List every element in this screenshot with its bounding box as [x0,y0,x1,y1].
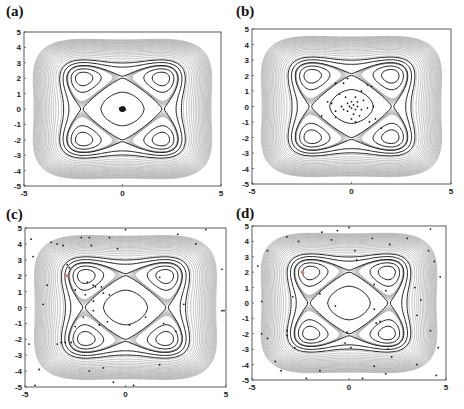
y-tick-label: -4 [14,167,22,176]
y-tick-label: -3 [242,149,250,158]
y-tick-label: 2 [245,268,250,277]
best-point-marker [65,274,69,278]
panel-b: 543210-1-2-3-4-5-505 [242,25,454,196]
x-tick-label: -5 [20,189,28,198]
y-tick-label: 0 [245,103,250,112]
y-tick-label: 3 [245,56,250,65]
y-tick-label: -2 [242,134,250,143]
y-tick-label: 4 [17,43,22,52]
y-tick-label: 5 [17,28,22,37]
contour-lines [261,36,441,176]
y-tick-label: -2 [14,136,22,145]
y-tick-label: 1 [245,87,250,96]
best-point-marker [301,270,305,274]
y-tick-label: 1 [245,284,250,293]
y-tick-label: 5 [245,25,250,34]
x-tick-label: 5 [219,189,224,198]
x-tick-label: 5 [444,383,449,392]
x-tick-label: 0 [347,383,352,392]
y-tick-label: -4 [242,361,250,370]
y-tick-label: -4 [242,165,250,174]
x-tick-label: 0 [120,189,125,198]
y-tick-label: 1 [18,288,23,297]
y-tick-label: -3 [15,351,23,360]
y-tick-label: 2 [245,72,250,81]
scatter-points [119,106,126,112]
y-tick-label: 4 [245,41,250,50]
figure-canvas: 543210-1-2-3-4-5-505543210-1-2-3-4-5-505… [0,0,464,409]
y-tick-label: 2 [17,74,22,83]
x-tick-label: 0 [123,390,128,399]
y-tick-label: 0 [245,299,250,308]
x-tick-label: -5 [248,187,256,196]
y-tick-label: 0 [18,304,23,313]
y-tick-label: 0 [17,105,22,114]
panel-label: (d) [236,205,254,222]
contour-lines [261,233,437,372]
y-tick-label: -4 [15,367,23,376]
panel-label: (a) [6,3,24,20]
y-tick-label: -2 [15,335,23,344]
y-tick-label: 4 [245,237,250,246]
panel-a: 543210-1-2-3-4-5-505 [14,28,224,198]
y-tick-label: 5 [245,222,250,231]
x-tick-label: 5 [449,187,454,196]
y-tick-label: -1 [242,118,250,127]
y-tick-label: -2 [242,330,250,339]
panel-label: (c) [6,206,23,223]
panel-label: (b) [236,3,254,20]
y-tick-label: -1 [242,314,250,323]
y-tick-label: -1 [15,319,23,328]
panel-c: 543210-1-2-3-4-5-505 [15,224,229,399]
y-tick-label: 3 [245,253,250,262]
contour-lines [35,236,217,380]
x-tick-label: -5 [248,383,256,392]
x-tick-label: 5 [224,390,229,399]
y-tick-label: 2 [18,272,23,281]
y-tick-label: -3 [14,151,22,160]
x-tick-label: -5 [21,390,29,399]
panel-d: 543210-1-2-3-4-5-505 [242,222,449,392]
y-tick-label: -1 [14,120,22,129]
x-tick-label: 0 [349,187,354,196]
y-tick-label: 1 [17,90,22,99]
y-tick-label: 4 [18,240,23,249]
y-tick-label: -3 [242,345,250,354]
y-tick-label: 3 [18,256,23,265]
y-tick-label: 3 [17,59,22,68]
y-tick-label: 5 [18,224,23,233]
